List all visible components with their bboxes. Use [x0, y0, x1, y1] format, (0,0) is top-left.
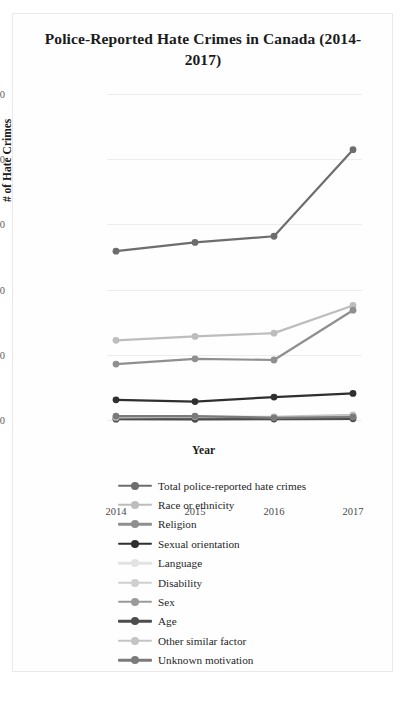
data-point [271, 233, 278, 240]
legend-label: Religion [158, 518, 197, 530]
legend-swatch-icon [118, 655, 152, 665]
legend-item[interactable]: Disability [13, 573, 394, 592]
legend-label: Sex [158, 596, 175, 608]
data-point [271, 330, 278, 337]
legend-item[interactable]: Race or ethnicity [13, 495, 394, 514]
legend-swatch-icon [118, 500, 152, 510]
series-line [116, 306, 353, 341]
y-axis-tick-label: 1,000 [0, 284, 5, 295]
legend-label: Age [158, 615, 177, 627]
legend-swatch-icon [118, 481, 152, 491]
legend-item[interactable]: Religion [13, 515, 394, 534]
series-total-police-reported-hate-crimes [113, 146, 357, 254]
legend-swatch-icon [118, 578, 152, 588]
data-point [350, 414, 357, 421]
legend-label: Language [158, 557, 202, 569]
data-point [113, 413, 120, 420]
legend-item[interactable]: Unknown motivation [13, 651, 394, 670]
chart-frame: Police-Reported Hate Crimes in Canada (2… [12, 13, 393, 672]
data-point [113, 248, 120, 255]
data-point [350, 307, 357, 314]
data-point [271, 414, 278, 421]
series-religion [113, 307, 357, 368]
data-point [192, 239, 199, 246]
legend-swatch-icon [118, 616, 152, 626]
series-lines [107, 94, 362, 420]
legend-label: Race or ethnicity [158, 499, 234, 511]
chart-title: Police-Reported Hate Crimes in Canada (2… [43, 28, 363, 70]
data-point [271, 394, 278, 401]
y-axis-tick-label: 2,500 [0, 89, 5, 100]
data-point [113, 361, 120, 368]
data-point [192, 355, 199, 362]
plot-area: 05001,0001,5002,0002,500 201420152016201… [107, 94, 362, 420]
legend-item[interactable]: Language [13, 554, 394, 573]
legend-label: Unknown motivation [158, 654, 253, 666]
legend-item[interactable]: Sexual orientation [13, 534, 394, 553]
legend-swatch-icon [118, 636, 152, 646]
legend-swatch-icon [118, 519, 152, 529]
data-point [271, 357, 278, 364]
data-point [113, 396, 120, 403]
y-axis-tick-label: 500 [0, 349, 5, 360]
legend-swatch-icon [118, 597, 152, 607]
legend-swatch-icon [118, 558, 152, 568]
x-axis-title: Year [13, 444, 394, 456]
data-point [192, 398, 199, 405]
legend-item[interactable]: Sex [13, 592, 394, 611]
legend-item[interactable]: Age [13, 612, 394, 631]
legend-swatch-icon [118, 539, 152, 549]
y-axis-tick-label: 1,500 [0, 219, 5, 230]
data-point [192, 413, 199, 420]
data-point [113, 337, 120, 344]
legend-label: Sexual orientation [158, 538, 240, 550]
data-point [192, 333, 199, 340]
chart-legend: Total police-reported hate crimesRace or… [13, 476, 394, 670]
y-axis-tick-label: 2,000 [0, 154, 5, 165]
legend-label: Disability [158, 577, 202, 589]
legend-label: Total police-reported hate crimes [158, 480, 306, 492]
series-race-or-ethnicity [113, 302, 357, 344]
series-line [116, 393, 353, 401]
data-point [350, 146, 357, 153]
data-point [350, 390, 357, 397]
series-line [116, 419, 353, 420]
series-line [116, 150, 353, 251]
series-sexual-orientation [113, 390, 357, 405]
y-axis-tick-label: 0 [0, 415, 5, 426]
legend-label: Other similar factor [158, 635, 246, 647]
legend-item[interactable]: Other similar factor [13, 631, 394, 650]
legend-item[interactable]: Total police-reported hate crimes [13, 476, 394, 495]
